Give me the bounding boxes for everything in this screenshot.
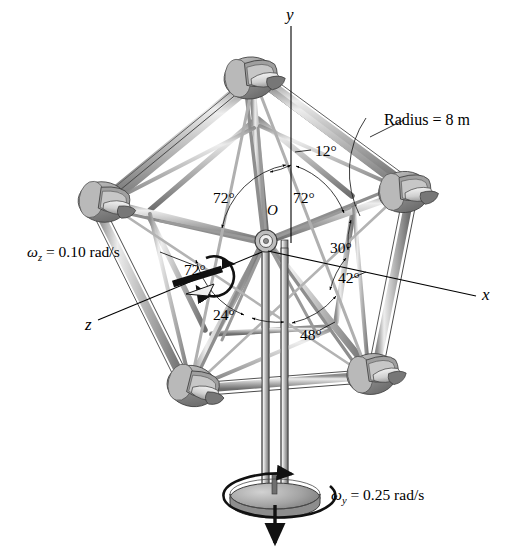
angle-72-lower-label: 72° — [184, 261, 206, 278]
radius-label: Radius = 8 m — [384, 111, 470, 128]
z-axis-label: z — [84, 315, 92, 334]
mechanics-figure: y x z O Radius = 8 m 12° 72° 72° 72° 30°… — [0, 0, 508, 560]
diagram-canvas: y x z O Radius = 8 m 12° 72° 72° 72° 30°… — [0, 0, 508, 560]
omega-z-value: = 0.10 rad/s — [42, 243, 120, 260]
angle-72-right-label: 72° — [293, 189, 315, 206]
origin-label: O — [267, 202, 278, 218]
y-axis-label: y — [284, 5, 294, 24]
angle-30-label: 30° — [330, 239, 352, 256]
omega-y-value: = 0.25 rad/s — [347, 486, 425, 503]
angle-42-label: 42° — [338, 269, 360, 286]
angle-72-left-label: 72° — [213, 189, 235, 206]
x-axis-label: x — [481, 285, 490, 304]
angle-24-label: 24° — [213, 306, 235, 323]
angle-12-label: 12° — [315, 142, 337, 159]
angle-48-label: 48° — [300, 326, 322, 343]
central-hub — [255, 230, 277, 252]
